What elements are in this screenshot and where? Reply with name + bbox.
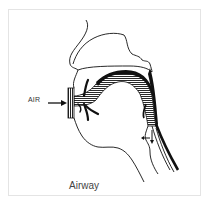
palate-outline [78,66,152,72]
air-arrow [48,100,67,106]
figure-caption: Airway [69,180,99,191]
epiglottis-arrowhead-left [141,136,144,140]
jaw-neck-outline [74,118,144,182]
head-profile-outline [70,20,88,70]
mouthpiece [68,88,74,118]
trachea-inner [156,128,174,172]
epiglottis-arrowhead-down [150,140,154,144]
lip-outline [73,70,78,88]
airway-diagram [0,0,211,206]
air-label: AIR [28,96,40,103]
